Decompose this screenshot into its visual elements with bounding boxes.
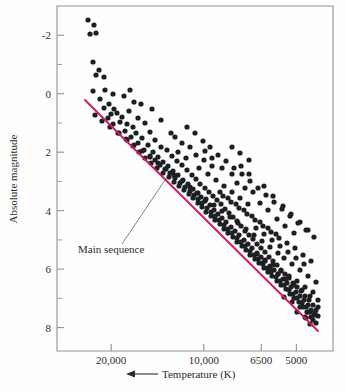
data-point [209,163,214,168]
data-point [268,229,273,234]
data-point [106,101,111,106]
data-point [261,231,266,236]
data-point [254,241,259,246]
data-point [276,235,281,240]
data-point [229,144,234,149]
data-point [299,287,304,292]
data-point [147,154,152,159]
y-tick-label: 6 [46,263,52,275]
data-point [307,293,312,298]
data-point [270,193,275,198]
main-sequence-fit [85,100,318,331]
data-point [206,189,211,194]
data-point [168,130,173,135]
data-point [293,255,298,260]
data-point [196,165,201,170]
data-point [257,200,262,205]
data-point [119,114,124,119]
data-point [181,187,186,192]
data-point [187,144,192,149]
data-point [267,266,272,271]
data-point [184,124,189,129]
data-point [236,205,241,210]
data-point [183,155,188,160]
data-point [259,260,264,265]
data-point [96,67,101,72]
data-point [246,232,251,237]
data-point [313,279,318,284]
annotation-leader-line [122,177,167,244]
data-point [90,88,95,93]
data-point [114,110,119,115]
data-point [158,117,163,122]
x-axis-title-group: Temperature (K) [126,368,236,381]
data-point [101,74,106,79]
data-point [252,217,257,222]
data-point [219,165,224,170]
data-point [310,302,315,307]
data-point [292,245,297,250]
data-point [219,208,224,213]
data-point [291,282,296,287]
data-point [243,226,248,231]
data-point [229,171,234,176]
data-point [295,220,300,225]
data-point [138,101,143,106]
y-tick-label: 0 [46,88,52,100]
data-point [184,167,189,172]
data-point [245,201,250,206]
data-point [164,147,169,152]
data-point [207,144,212,149]
data-point [281,255,286,260]
data-point [277,243,282,248]
data-point [267,244,272,249]
data-point [203,209,208,214]
data-point [101,105,106,110]
data-point [145,142,150,147]
data-point [242,185,247,190]
data-point [87,31,92,36]
data-point [269,237,274,242]
data-point [223,158,228,163]
data-point [176,183,181,188]
data-point [203,196,208,201]
y-tick-label: 2 [46,146,52,158]
data-point [190,195,195,200]
data-point [121,93,126,98]
main-sequence-annotation: Main sequence [78,177,167,255]
data-point [274,216,279,221]
scatter-points [85,17,320,326]
y-tick-label: -2 [42,29,51,41]
y-axis: -202468 [42,29,64,333]
data-point [220,193,225,198]
data-point [237,150,242,155]
data-point [139,135,144,140]
y-tick-label: 4 [46,205,52,217]
main-sequence-line [85,100,318,331]
data-point [142,120,147,125]
data-point [139,148,144,153]
data-point [122,128,127,133]
data-point [110,91,115,96]
x-axis: 20,00010,00065005000 [96,344,308,366]
data-point [253,225,258,230]
data-point [202,185,207,190]
data-point [297,304,302,309]
data-point [195,190,200,195]
data-point [265,207,270,212]
data-point [93,72,98,77]
data-point [193,152,198,157]
data-point [301,261,306,266]
data-point [308,258,313,263]
data-point [285,249,290,254]
data-point [275,250,280,255]
data-point [303,304,308,309]
data-point [235,220,240,225]
data-point [131,99,136,104]
data-point [255,185,260,190]
data-point [91,22,96,27]
data-point [205,171,210,176]
data-point [262,249,267,254]
data-point [284,240,289,245]
data-point [211,202,216,207]
